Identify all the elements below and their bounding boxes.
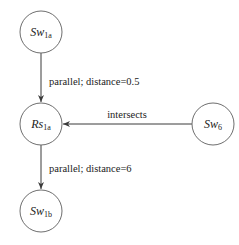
edge-label-rs1a-sw1b: parallel; distance=6 — [49, 163, 132, 174]
node-rs1a-base: Rs — [30, 117, 43, 131]
node-sw6-sub: 6 — [218, 123, 222, 132]
node-sw1a: Sw1a — [20, 11, 62, 53]
node-rs1a: Rs1a — [20, 103, 62, 145]
node-sw1a-base: Sw — [30, 25, 44, 39]
edge-label-sw6-rs1a: intersects — [107, 109, 147, 120]
node-sw6-base: Sw — [204, 117, 218, 131]
node-sw1b-sub: 1b — [44, 210, 52, 219]
node-sw1b: Sw1b — [20, 190, 62, 232]
node-sw6: Sw6 — [192, 103, 234, 145]
edge-label-sw1a-rs1a: parallel; distance=0.5 — [49, 76, 139, 87]
diagram-canvas: parallel; distance=0.5 intersects parall… — [0, 0, 239, 245]
node-rs1a-sub: 1a — [43, 123, 51, 132]
node-sw1b-base: Sw — [30, 204, 44, 218]
node-sw1a-sub: 1a — [44, 31, 52, 40]
